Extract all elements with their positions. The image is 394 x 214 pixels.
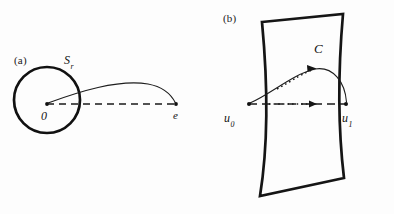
arc-apex-arrowhead (307, 65, 317, 72)
sphere-label: Sr (64, 54, 73, 69)
region-c-outline (260, 14, 344, 196)
u0-symbol: u (224, 111, 230, 125)
origin-label: 0 (41, 110, 47, 122)
u1-symbol: u (342, 111, 348, 125)
endpoint-label: e (173, 110, 178, 121)
u0-label: u0 (224, 112, 234, 127)
sphere-symbol: S (64, 53, 70, 67)
geodesic-arc-dotted-segment (277, 70, 314, 90)
geodesic-arc-right (315, 69, 347, 102)
u0-subscript: 0 (231, 120, 235, 129)
panel-b-label: (b) (223, 12, 236, 24)
panel-a-drawing (0, 0, 197, 214)
sphere-subscript: r (71, 62, 74, 71)
figure-root: (a) Sr 0 e (b) (0, 0, 394, 214)
panel-b: (b) C u0 u1 (197, 0, 394, 214)
region-c-label: C (314, 42, 323, 55)
endpoint-e-dot (174, 102, 178, 106)
panel-a-label: (a) (14, 54, 27, 66)
u1-label: u1 (342, 112, 352, 127)
circle-sphere-sr (14, 67, 80, 133)
panel-a: (a) Sr 0 e (0, 0, 197, 214)
chord-midpoint-arrowhead (309, 101, 317, 108)
geodesic-curve (48, 83, 176, 103)
origin-point-dot (45, 102, 49, 106)
u0-point-dot (247, 102, 251, 106)
u1-point-dot (344, 102, 348, 106)
u1-subscript: 1 (349, 120, 353, 129)
panel-b-drawing (197, 0, 394, 214)
